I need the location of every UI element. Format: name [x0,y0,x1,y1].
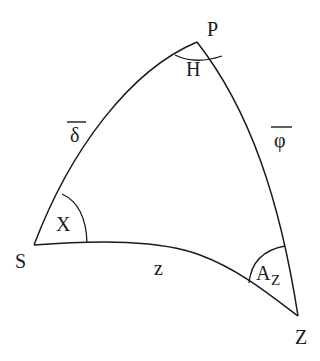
angle-label-H: H [186,58,200,80]
vertex-label-S: S [15,250,26,272]
angle-label-A: A [256,262,271,284]
angle-label-X: X [56,213,71,235]
side-label-z: z [154,257,163,279]
vertex-label-Z: Z [295,326,307,348]
side-PZ-arc [197,42,298,316]
spherical-triangle-diagram: P S Z H X A Z δ φ z [0,0,320,361]
side-label-delta: δ [70,124,79,146]
angle-label-subscript-z: Z [271,272,280,288]
side-label-phi: φ [274,129,286,152]
vertex-label-P: P [207,18,218,40]
